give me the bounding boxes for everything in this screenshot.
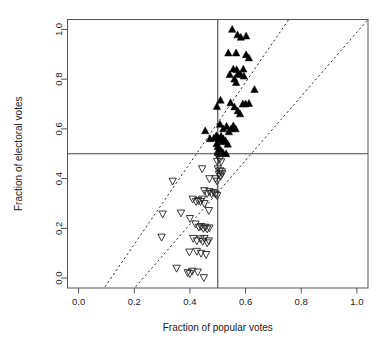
data-point-open-triangle bbox=[205, 208, 212, 215]
scatter-plot-figure: 0.00.20.40.60.81.00.00.20.40.60.81.0 Fra… bbox=[0, 0, 389, 355]
data-point-filled-triangle bbox=[232, 49, 239, 56]
x-tick-label: 0.0 bbox=[72, 296, 85, 307]
data-point-open-triangle bbox=[198, 166, 205, 173]
data-point-filled-triangle bbox=[251, 86, 258, 93]
upper-dashed-line bbox=[105, 20, 289, 287]
y-tick-label: 0.0 bbox=[53, 271, 64, 284]
data-point-filled-triangle bbox=[242, 32, 249, 39]
x-tick-label: 0.4 bbox=[183, 296, 196, 307]
x-axis-title: Fraction of popular votes bbox=[163, 322, 273, 333]
data-point-open-triangle bbox=[158, 234, 165, 241]
data-point-filled-triangle bbox=[240, 65, 247, 72]
series-loser-electoral-minority bbox=[158, 153, 226, 282]
data-point-open-triangle bbox=[159, 211, 166, 218]
x-tick-label: 0.2 bbox=[128, 296, 141, 307]
y-tick-label: 0.2 bbox=[53, 222, 64, 235]
plot-canvas: 0.00.20.40.60.81.00.00.20.40.60.81.0 Fra… bbox=[0, 0, 389, 355]
data-point-filled-triangle bbox=[213, 103, 220, 110]
series-winner-electoral-majority bbox=[202, 25, 259, 156]
data-point-open-triangle bbox=[186, 249, 193, 256]
y-axis-title: Fraction of electoral votes bbox=[13, 97, 24, 212]
y-tick-label: 0.4 bbox=[53, 172, 64, 185]
y-tick-label: 1.0 bbox=[53, 23, 64, 36]
data-point-filled-triangle bbox=[202, 127, 209, 134]
dashed-lines-group bbox=[105, 20, 368, 287]
x-tick-label: 0.8 bbox=[295, 296, 308, 307]
data-point-open-triangle bbox=[173, 265, 180, 272]
data-point-open-triangle bbox=[169, 178, 176, 185]
data-point-open-triangle bbox=[177, 210, 184, 217]
x-tick-label: 1.0 bbox=[350, 296, 363, 307]
y-tick-label: 0.8 bbox=[53, 73, 64, 86]
y-tick-label: 0.6 bbox=[53, 122, 64, 135]
axis-ticks-group: 0.00.20.40.60.81.00.00.20.40.60.81.0 bbox=[53, 23, 364, 307]
data-point-filled-triangle bbox=[225, 49, 232, 56]
data-point-open-triangle bbox=[200, 275, 207, 282]
x-tick-label: 0.6 bbox=[239, 296, 252, 307]
data-point-filled-triangle bbox=[229, 25, 236, 32]
